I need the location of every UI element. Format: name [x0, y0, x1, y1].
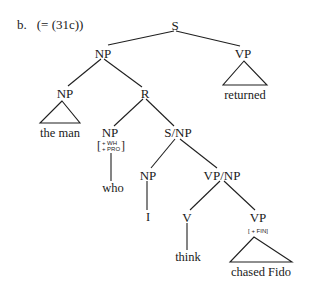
tree-edges [0, 0, 310, 285]
node-np-left: NP [57, 87, 74, 100]
node-s-np: S/NP [164, 126, 191, 139]
node-np-top: NP [95, 47, 112, 60]
node-vp-np: VP/NP [204, 169, 241, 182]
node-np-i: NP [140, 169, 157, 182]
leaf-the-man: the man [40, 127, 80, 140]
feature-fin: [ + FIN] [248, 228, 268, 234]
node-np-who: NP [102, 126, 119, 139]
node-v: V [182, 211, 191, 224]
triangle-vp-chased-fido [230, 237, 292, 262]
edge-s-vp [176, 31, 240, 46]
leaf-chased-fido: chased Fido [231, 266, 291, 279]
leaf-who: who [102, 182, 124, 195]
edge-r-np [114, 99, 143, 126]
feature-lines: + WH + PRO [101, 140, 121, 152]
bracket-close: ] [121, 140, 125, 152]
node-s: S [171, 19, 178, 32]
feature-matrix-wh-pro: [ + WH + PRO ] [97, 140, 125, 152]
edge-snp-np [151, 139, 175, 168]
leaf-i: I [146, 211, 150, 224]
triangle-np-the-man [40, 101, 80, 123]
edge-s-np [108, 31, 174, 45]
leaf-think: think [175, 251, 201, 264]
example-reference: (= (31c)) [37, 17, 84, 32]
node-vp-fin: VP [250, 211, 267, 224]
edge-snp-vpnp [180, 139, 217, 168]
edge-vpnp-vp [224, 181, 255, 210]
edge-np-r [104, 59, 142, 87]
edge-vpnp-v [190, 181, 220, 210]
example-label: b.(= (31c)) [17, 18, 93, 31]
node-r: R [141, 87, 150, 100]
edge-r-snp [146, 99, 174, 126]
triangle-vp-returned [223, 61, 267, 85]
feature-pro: + PRO [102, 146, 120, 152]
node-vp-right: VP [235, 47, 252, 60]
leaf-returned: returned [224, 89, 266, 102]
edge-np-np [68, 59, 101, 86]
example-number: b. [17, 17, 27, 32]
